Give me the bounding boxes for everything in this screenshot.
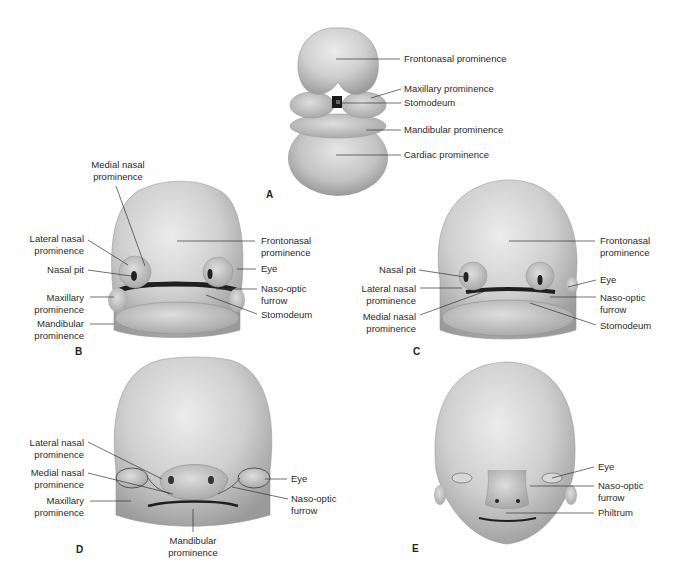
label-a-frontonasal-prominence: Frontonasal prominence <box>404 53 506 65</box>
panel-letter-e: E <box>412 543 419 554</box>
label-a-stomodeum: Stomodeum <box>404 97 455 109</box>
embryo-c-illustration <box>438 180 578 339</box>
label-d-maxillary-prominence: Maxillary prominence <box>10 495 84 518</box>
panel-letter-c: C <box>413 346 420 357</box>
label-d-eye: Eye <box>291 473 307 485</box>
label-b-lateral-nasal-prominence: Lateral nasal prominence <box>10 233 84 256</box>
label-c-frontonasal-prominence: Frontonasal prominence <box>600 235 650 258</box>
label-b-stomodeum: Stomodeum <box>261 309 312 321</box>
label-c-medial-nasal-prominence: Medial nasal prominence <box>340 311 416 334</box>
label-b-maxillary-prominence: Maxillary prominence <box>10 292 84 315</box>
label-b-eye: Eye <box>261 263 277 275</box>
embryo-b-illustration <box>108 181 245 337</box>
figure-stage: Frontonasal prominence Maxillary promine… <box>0 0 679 583</box>
embryo-d-illustration <box>114 357 272 526</box>
label-a-cardiac-prominence: Cardiac prominence <box>404 149 489 161</box>
label-c-naso-optic-furrow: Naso-optic furrow <box>600 292 645 315</box>
label-b-frontonasal-prominence: Frontonasal prominence <box>261 235 311 258</box>
label-e-eye: Eye <box>598 461 614 473</box>
label-c-eye: Eye <box>600 274 616 286</box>
embryo-e-illustration <box>434 362 577 544</box>
panel-letter-d: D <box>76 544 83 555</box>
label-b-mandibular-prominence: Mandibular prominence <box>10 318 84 341</box>
panel-letter-a: A <box>266 189 273 200</box>
label-b-medial-nasal-prominence: Medial nasal prominence <box>78 159 158 182</box>
label-e-philtrum: Philtrum <box>598 507 633 519</box>
label-c-nasal-pit: Nasal pit <box>340 264 416 276</box>
embryo-a-illustration <box>288 28 388 196</box>
label-b-nasal-pit: Nasal pit <box>10 264 84 276</box>
label-d-lateral-nasal-prominence: Lateral nasal prominence <box>10 437 84 460</box>
label-a-mandibular-prominence: Mandibular prominence <box>404 124 503 136</box>
label-a-maxillary-prominence: Maxillary prominence <box>404 83 494 95</box>
label-e-naso-optic-furrow: Naso-optic furrow <box>598 480 643 503</box>
label-c-lateral-nasal-prominence: Lateral nasal prominence <box>340 283 416 306</box>
label-d-medial-nasal-prominence: Medial nasal prominence <box>10 467 84 490</box>
label-d-naso-optic-furrow: Naso-optic furrow <box>291 493 336 516</box>
panel-letter-b: B <box>75 346 82 357</box>
label-b-naso-optic-furrow: Naso-optic furrow <box>261 283 306 306</box>
label-d-mandibular-prominence: Mandibular prominence <box>153 535 233 558</box>
label-c-stomodeum: Stomodeum <box>600 320 651 332</box>
